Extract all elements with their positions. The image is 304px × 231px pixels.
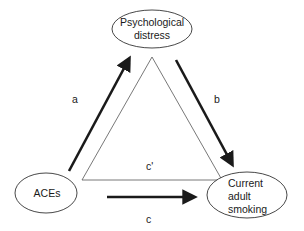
- node-label-line: Psychological: [120, 16, 184, 28]
- triangle-right-edge: [152, 57, 222, 180]
- node-aces: ACEs: [15, 173, 77, 213]
- path-a-label: a: [72, 93, 78, 105]
- mediation-diagram: Psychological distress ACEs Current adul…: [0, 0, 304, 231]
- path-a-arrow: [69, 59, 129, 171]
- path-b-label: b: [214, 93, 220, 105]
- node-label-line: smoking: [228, 203, 267, 215]
- path-c-prime-label: c': [146, 160, 153, 172]
- node-label-line: ACEs: [34, 187, 61, 199]
- path-c-label: c: [146, 213, 151, 225]
- node-current-adult-smoking: Current adult smoking: [207, 172, 287, 218]
- node-label-line: Current: [228, 177, 263, 189]
- node-label-line: distress: [134, 29, 170, 41]
- node-psychological-distress: Psychological distress: [112, 10, 192, 48]
- triangle-left-edge: [82, 57, 152, 180]
- node-label-line: adult: [228, 190, 251, 202]
